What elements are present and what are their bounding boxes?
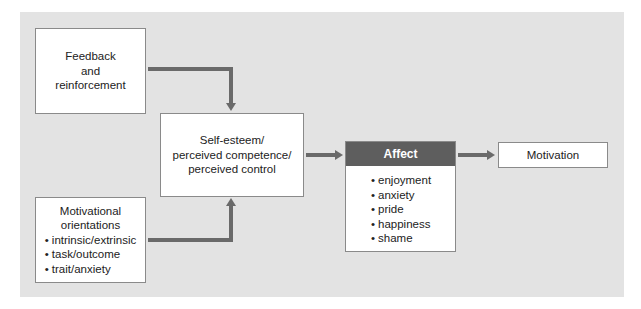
feedback-node: Feedback and reinforcement xyxy=(35,28,146,114)
affect-item: happiness xyxy=(371,217,431,232)
affect-item: enjoyment xyxy=(371,173,431,188)
self-esteem-node: Self-esteem/ perceived competence/ perce… xyxy=(160,113,304,197)
affect-list: enjoyment anxiety pride happiness shame xyxy=(371,173,431,246)
arrowhead-right-icon xyxy=(487,150,495,160)
self-esteem-line: perceived control xyxy=(188,162,276,177)
feedback-line: Feedback xyxy=(65,49,116,64)
affect-header: Affect xyxy=(346,142,455,166)
affect-item: pride xyxy=(371,202,431,217)
arrow-orientations-v xyxy=(229,206,233,242)
orientation-item: task/outcome xyxy=(45,247,136,262)
orientations-list: intrinsic/extrinsic task/outcome trait/a… xyxy=(45,233,136,277)
affect-item: anxiety xyxy=(371,188,431,203)
arrow-feedback-h xyxy=(148,67,233,71)
motivation-label: Motivation xyxy=(527,148,579,163)
feedback-line: and xyxy=(81,64,100,79)
arrowhead-down-icon xyxy=(226,103,236,111)
orientations-title: orientations xyxy=(61,218,120,233)
arrow-self-esteem-affect xyxy=(306,153,336,157)
arrowhead-right-icon xyxy=(335,150,343,160)
arrowhead-up-icon xyxy=(226,198,236,206)
orientations-title: Motivational xyxy=(60,204,121,219)
orientation-item: trait/anxiety xyxy=(45,262,136,277)
orientation-item: intrinsic/extrinsic xyxy=(45,233,136,248)
self-esteem-line: Self-esteem/ xyxy=(200,133,265,148)
affect-item: shame xyxy=(371,231,431,246)
affect-node: Affect enjoyment anxiety pride happiness… xyxy=(345,141,456,252)
arrow-orientations-h xyxy=(148,238,233,242)
arrow-affect-motivation xyxy=(458,153,488,157)
orientations-node: Motivational orientations intrinsic/extr… xyxy=(35,197,146,283)
motivation-node: Motivation xyxy=(498,142,608,168)
self-esteem-line: perceived competence/ xyxy=(173,148,292,163)
arrow-feedback-v xyxy=(229,67,233,104)
feedback-line: reinforcement xyxy=(55,78,125,93)
